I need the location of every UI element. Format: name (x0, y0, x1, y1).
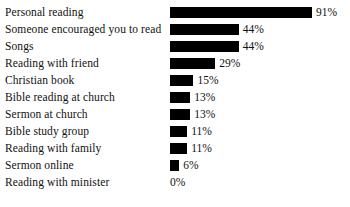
chart-rows: Personal reading91%Someone encouraged yo… (0, 4, 350, 191)
bar-value-label: 13% (194, 89, 215, 106)
bar-zone: 11% (170, 123, 212, 140)
chart-row: Reading with family11% (0, 140, 350, 157)
bar (170, 143, 187, 154)
bar (170, 58, 215, 69)
bar-value-label: 11% (191, 123, 212, 140)
bar-zone: 13% (170, 106, 215, 123)
chart-row: Someone encouraged you to read44% (0, 21, 350, 38)
bar-value-label: 6% (183, 157, 198, 174)
bar-value-label: 13% (194, 106, 215, 123)
chart-row: Personal reading91% (0, 4, 350, 21)
chart-row: Bible reading at church13% (0, 89, 350, 106)
bar-value-label: 15% (197, 72, 218, 89)
chart-row: Reading with minister0% (0, 174, 350, 191)
bar-value-label: 11% (191, 140, 212, 157)
category-label: Personal reading (5, 4, 84, 21)
chart-row: Christian book15% (0, 72, 350, 89)
bar (170, 160, 179, 171)
bar-value-label: 29% (219, 55, 240, 72)
bar-zone: 13% (170, 89, 215, 106)
bar (170, 126, 187, 137)
chart-row: Reading with friend29% (0, 55, 350, 72)
category-label: Reading with family (5, 140, 101, 157)
chart-row: Sermon at church13% (0, 106, 350, 123)
bar (170, 41, 239, 52)
category-label: Reading with friend (5, 55, 99, 72)
bar-zone: 91% (170, 4, 337, 21)
bar (170, 24, 239, 35)
bar-zone: 44% (170, 38, 264, 55)
bar-zone: 6% (170, 157, 199, 174)
bar-value-label: 44% (243, 21, 264, 38)
bar-zone: 29% (170, 55, 240, 72)
chart-row: Bible study group11% (0, 123, 350, 140)
bar-zone: 0% (170, 174, 185, 191)
bar (170, 75, 193, 86)
bar (170, 109, 190, 120)
bar-value-label: 0% (170, 174, 185, 191)
category-label: Sermon at church (5, 106, 88, 123)
bar-value-label: 44% (243, 38, 264, 55)
horizontal-bar-chart: Personal reading91%Someone encouraged yo… (0, 0, 350, 207)
bar (170, 7, 312, 18)
category-label: Christian book (5, 72, 74, 89)
category-label: Sermon online (5, 157, 74, 174)
category-label: Songs (5, 38, 34, 55)
category-label: Reading with minister (5, 174, 109, 191)
bar (170, 92, 190, 103)
category-label: Bible reading at church (5, 89, 115, 106)
bar-zone: 15% (170, 72, 219, 89)
category-label: Someone encouraged you to read (5, 21, 161, 38)
bar-value-label: 91% (316, 4, 337, 21)
bar-zone: 11% (170, 140, 212, 157)
bar-zone: 44% (170, 21, 264, 38)
category-label: Bible study group (5, 123, 89, 140)
chart-row: Sermon online6% (0, 157, 350, 174)
chart-row: Songs44% (0, 38, 350, 55)
